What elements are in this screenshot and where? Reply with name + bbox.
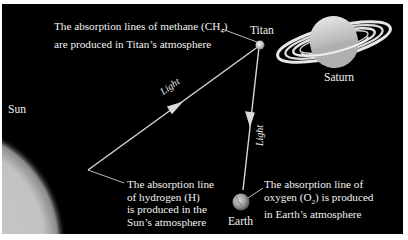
oxygen-text-b: ) is produced bbox=[315, 191, 373, 203]
hydrogen-pointer bbox=[88, 170, 124, 183]
oxygen-text-a: oxygen (O bbox=[264, 191, 312, 203]
methane-annotation-line1: The absorption lines of methane (CH4) bbox=[54, 20, 227, 38]
hydrogen-annotation-line1: The absorption line bbox=[127, 178, 214, 191]
hydrogen-annotation-line4: Sun’s atmosphere bbox=[127, 216, 214, 229]
methane-annotation-line2: are produced in Titan’s atmosphere bbox=[54, 38, 227, 51]
oxygen-annotation-line1: The absorption line of bbox=[264, 178, 373, 191]
diagram-panel: Sun Titan Saturn Earth Light Light The a… bbox=[2, 4, 403, 234]
methane-text-a: The absorption lines of methane (CH bbox=[54, 20, 220, 32]
methane-text-b: ) bbox=[224, 20, 228, 32]
oxygen-annotation-line2: oxygen (O2) is produced bbox=[264, 191, 373, 209]
oxygen-annotation: The absorption line of oxygen (O2) is pr… bbox=[264, 178, 373, 221]
earth-label: Earth bbox=[228, 215, 253, 228]
saturn-label: Saturn bbox=[324, 71, 354, 84]
saturn-icon bbox=[271, 4, 396, 81]
annotation-pointers bbox=[88, 29, 263, 198]
sun-icon bbox=[2, 122, 102, 234]
earth-icon bbox=[233, 194, 250, 211]
light-ray-titan-to-earth bbox=[243, 47, 259, 190]
oxygen-pointer bbox=[248, 188, 263, 198]
methane-annotation: The absorption lines of methane (CH4) ar… bbox=[54, 20, 227, 50]
sun-label: Sun bbox=[8, 103, 26, 116]
light-ray-sun-to-titan bbox=[88, 46, 259, 170]
oxygen-annotation-line3: in Earth’s atmosphere bbox=[264, 208, 373, 221]
hydrogen-annotation: The absorption line of hydrogen (H) is p… bbox=[127, 178, 214, 228]
light-label-titan-to-earth: Light bbox=[254, 125, 265, 146]
titan-icon bbox=[256, 41, 265, 50]
titan-label: Titan bbox=[250, 24, 274, 37]
hydrogen-annotation-line3: is produced in the bbox=[127, 203, 214, 216]
hydrogen-annotation-line2: of hydrogen (H) bbox=[127, 191, 214, 204]
